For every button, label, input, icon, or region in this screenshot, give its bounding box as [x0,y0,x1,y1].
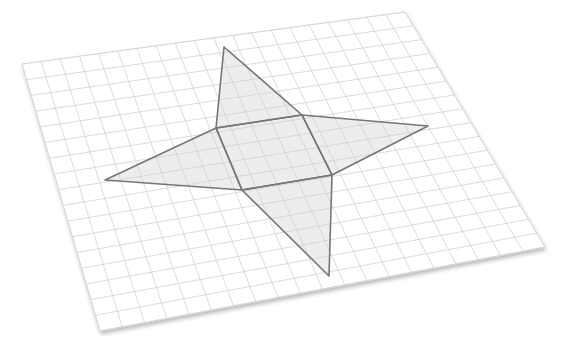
diagram-canvas [0,0,573,342]
